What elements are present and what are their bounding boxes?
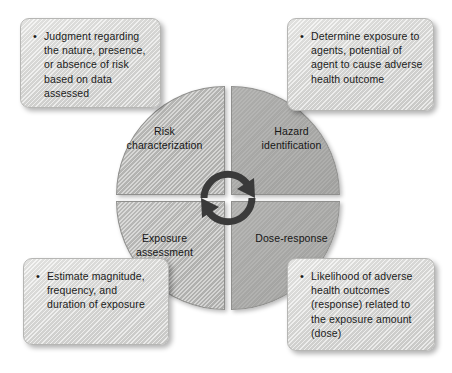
callout-risk-characterization: Judgment regarding the nature, presence,… (20, 18, 161, 108)
quadrant-label-line1: Risk (111, 125, 218, 139)
quadrant-label: Hazard identification (238, 125, 345, 152)
callout-bullet-list: Likelihood of adverse health outcomes (r… (300, 269, 424, 340)
callout-bullet: Determine exposure to agents, potential … (300, 29, 423, 86)
callout-bullet-list: Determine exposure to agents, potential … (300, 29, 423, 86)
callout-bullet: Judgment regarding the nature, presence,… (33, 29, 150, 100)
callout-hazard-identification: Determine exposure to agents, potential … (287, 18, 434, 111)
callout-bullet: Likelihood of adverse health outcomes (r… (300, 269, 424, 340)
quadrant-label: Exposure assessment (111, 232, 218, 259)
quadrant-label-line2: assessment (111, 246, 218, 260)
quadrant-label: Dose-response (238, 232, 345, 246)
callout-exposure-assessment: Estimate magnitude, frequency, and durat… (23, 258, 169, 345)
quadrant-label-line2: identification (238, 139, 345, 153)
quadrant-label-line1: Dose-response (238, 232, 345, 246)
risk-assessment-diagram: Judgment regarding the nature, presence,… (0, 0, 452, 373)
quadrant-label-line1: Hazard (238, 125, 345, 139)
quadrant-label-line2: characterization (111, 139, 218, 153)
callout-bullet-list: Judgment regarding the nature, presence,… (33, 29, 150, 100)
callout-bullet: Estimate magnitude, frequency, and durat… (36, 269, 158, 312)
quadrant-label-line1: Exposure (111, 232, 218, 246)
callout-bullet-list: Estimate magnitude, frequency, and durat… (36, 269, 158, 312)
callout-dose-response: Likelihood of adverse health outcomes (r… (287, 258, 435, 351)
quadrant-label: Risk characterization (111, 125, 218, 152)
